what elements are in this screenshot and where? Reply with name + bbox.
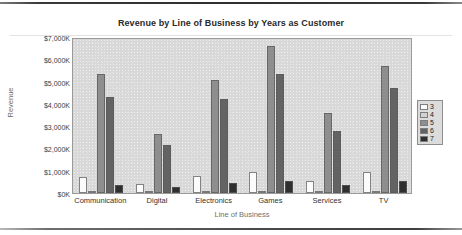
page-bottom-rule xyxy=(0,228,462,230)
bar[interactable] xyxy=(88,191,96,193)
bar[interactable] xyxy=(315,191,323,193)
bar[interactable] xyxy=(258,191,266,193)
y-axis-tick-label: $6,000K xyxy=(6,57,70,64)
y-axis-ticks: $7,000K$6,000K$5,000K$4,000K$3,000K$2,00… xyxy=(0,38,70,194)
bar-group xyxy=(73,74,130,193)
chart-legend[interactable]: 34567 xyxy=(417,100,443,145)
bar[interactable] xyxy=(390,88,398,193)
y-axis-tick-label: $1,000K xyxy=(6,168,70,175)
bar[interactable] xyxy=(276,74,284,193)
x-axis-tick-label: TV xyxy=(379,196,389,205)
legend-item[interactable]: 4 xyxy=(420,111,440,118)
bar[interactable] xyxy=(145,191,153,193)
x-axis-ticks: CommunicationDigitalElectronicsGamesServ… xyxy=(72,196,412,208)
bar[interactable] xyxy=(249,172,257,193)
legend-swatch-icon xyxy=(420,112,428,118)
page-top-rule xyxy=(0,2,462,4)
x-axis-tick-label: Communication xyxy=(74,196,126,205)
legend-item[interactable]: 7 xyxy=(420,135,440,142)
bar[interactable] xyxy=(342,185,350,193)
bar[interactable] xyxy=(154,134,162,193)
title-divider xyxy=(10,35,452,36)
bar[interactable] xyxy=(106,97,114,193)
bar[interactable] xyxy=(79,177,87,193)
legend-label: 6 xyxy=(430,127,434,134)
y-axis-tick-label: $2,000K xyxy=(6,146,70,153)
bar-group xyxy=(356,66,412,193)
bar-group xyxy=(186,80,243,193)
bar[interactable] xyxy=(306,181,314,193)
bar[interactable] xyxy=(202,191,210,193)
legend-item[interactable]: 5 xyxy=(420,119,440,126)
y-axis-tick-label: $3,000K xyxy=(6,124,70,131)
bar[interactable] xyxy=(372,191,380,193)
legend-label: 3 xyxy=(430,103,434,110)
bar[interactable] xyxy=(399,181,407,193)
legend-swatch-icon xyxy=(420,120,428,126)
bar[interactable] xyxy=(136,184,144,193)
bar[interactable] xyxy=(163,145,171,193)
legend-label: 5 xyxy=(430,119,434,126)
bar-chart: Revenue by Line of Business by Years as … xyxy=(0,6,462,226)
chart-title: Revenue by Line of Business by Years as … xyxy=(0,18,462,28)
x-axis-tick-label: Services xyxy=(313,196,342,205)
bar-group xyxy=(130,134,187,193)
y-axis-tick-label: $7,000K xyxy=(6,35,70,42)
bar[interactable] xyxy=(363,172,371,193)
x-axis-tick-label: Electronics xyxy=(195,196,232,205)
bar[interactable] xyxy=(333,131,341,193)
legend-label: 4 xyxy=(430,111,434,118)
chart-page: Revenue by Line of Business by Years as … xyxy=(0,0,462,235)
legend-swatch-icon xyxy=(420,128,428,134)
bar[interactable] xyxy=(229,183,237,193)
y-axis-tick-label: $0K xyxy=(6,191,70,198)
bar-group xyxy=(300,113,357,193)
bar-group xyxy=(243,46,300,193)
legend-swatch-icon xyxy=(420,136,428,142)
plot-area xyxy=(72,38,412,194)
bar[interactable] xyxy=(220,99,228,193)
legend-item[interactable]: 3 xyxy=(420,103,440,110)
x-axis-tick-label: Digital xyxy=(147,196,168,205)
bar[interactable] xyxy=(381,66,389,193)
bar[interactable] xyxy=(172,187,180,193)
x-axis-title: Line of Business xyxy=(72,210,412,219)
bar[interactable] xyxy=(115,185,123,193)
bar[interactable] xyxy=(285,181,293,193)
bar[interactable] xyxy=(324,113,332,193)
legend-label: 7 xyxy=(430,135,434,142)
x-axis-tick-label: Games xyxy=(258,196,282,205)
bar[interactable] xyxy=(193,176,201,193)
legend-swatch-icon xyxy=(420,104,428,110)
legend-item[interactable]: 6 xyxy=(420,127,440,134)
y-axis-tick-label: $5,000K xyxy=(6,79,70,86)
bar[interactable] xyxy=(211,80,219,193)
bar[interactable] xyxy=(97,74,105,193)
y-axis-tick-label: $4,000K xyxy=(6,101,70,108)
bar[interactable] xyxy=(267,46,275,193)
